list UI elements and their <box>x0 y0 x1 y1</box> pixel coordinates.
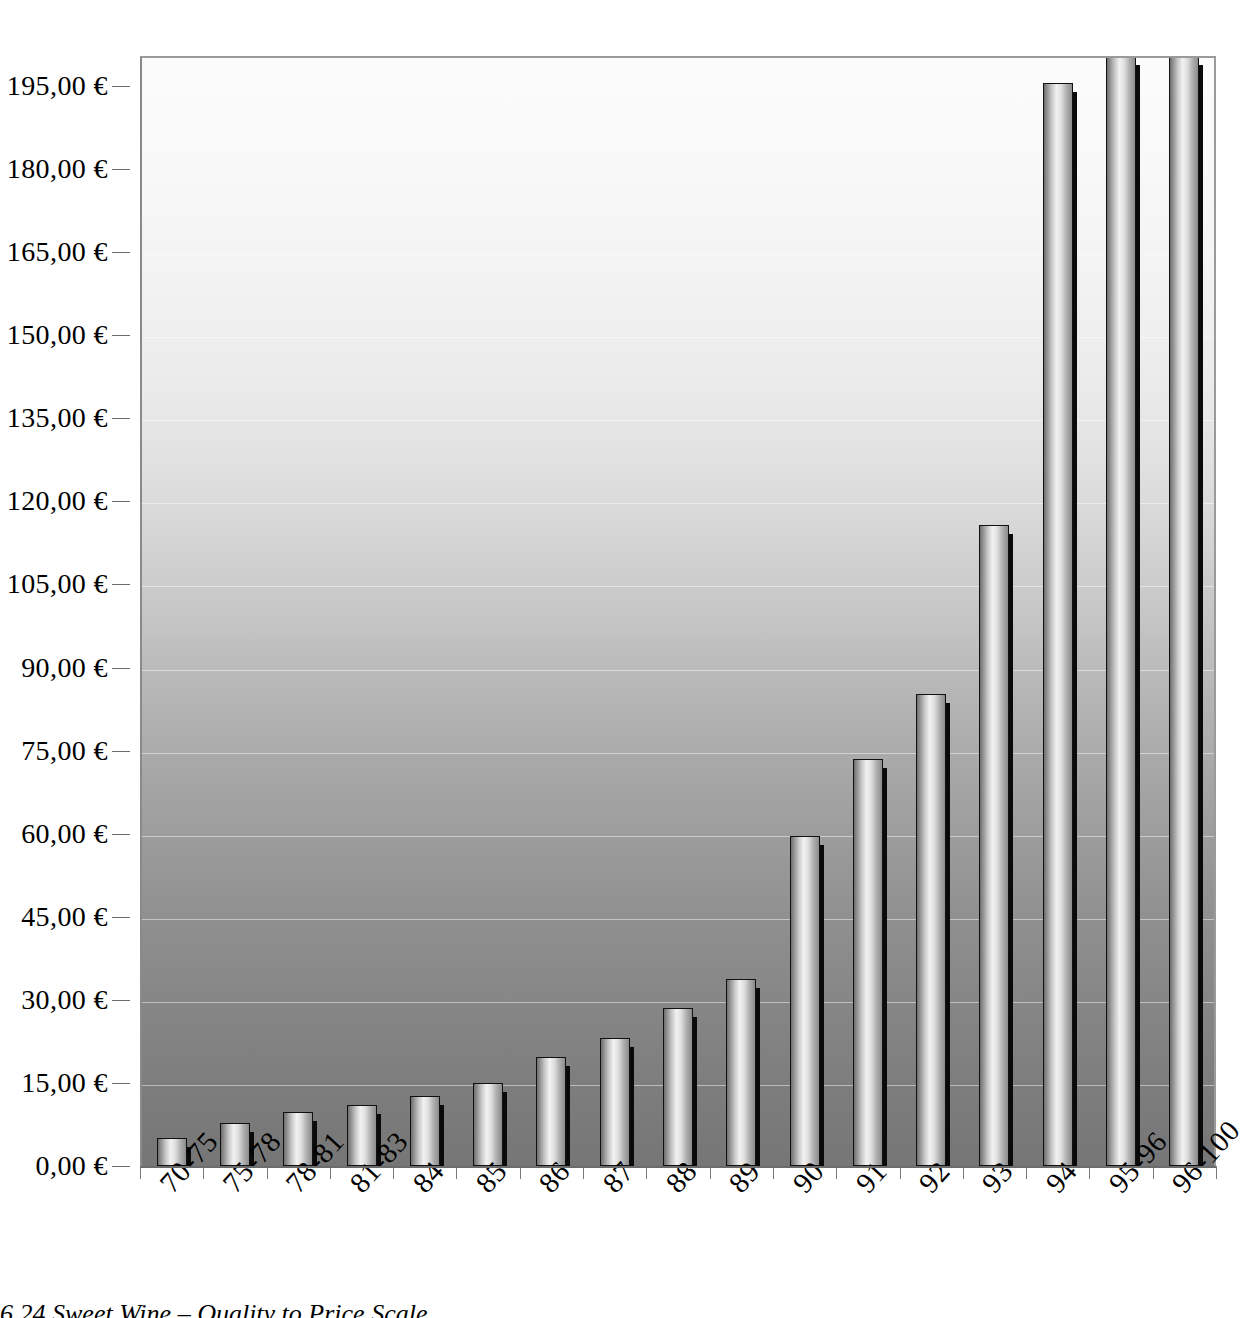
y-axis-tick-mark <box>112 834 130 835</box>
y-axis-tick-label: 105,00 € <box>7 570 108 598</box>
chart-plot-area <box>140 56 1216 1166</box>
bar <box>600 1038 634 1166</box>
y-axis-tick-label: 45,00 € <box>21 903 108 931</box>
y-axis-tick-label: 165,00 € <box>7 238 108 266</box>
y-axis-tick-label: 195,00 € <box>7 72 108 100</box>
y-axis-tick-label: 30,00 € <box>21 986 108 1014</box>
y-axis-tick-mark <box>112 1083 130 1084</box>
bar-slot <box>648 1008 711 1166</box>
bar-series <box>142 58 1214 1166</box>
x-axis-baseline <box>140 1166 1216 1168</box>
bar <box>1169 56 1203 1166</box>
bar-slot <box>775 836 838 1166</box>
y-axis-tick-mark <box>112 668 130 669</box>
bar <box>979 525 1013 1166</box>
bar-body <box>916 694 946 1166</box>
y-axis-tick-label: 90,00 € <box>21 654 108 682</box>
x-axis-labels: 70-7575-7878-8181-8384858687888990919293… <box>140 1178 1234 1298</box>
bar <box>916 694 950 1166</box>
bar-slot <box>458 1083 521 1166</box>
y-axis-tick-label: 0,00 € <box>36 1152 108 1180</box>
bar-body <box>1106 56 1136 1166</box>
bar-body <box>473 1083 503 1166</box>
bar <box>790 836 824 1166</box>
y-axis-tick-mark <box>112 418 130 419</box>
y-axis-tick-label: 15,00 € <box>21 1069 108 1097</box>
bar-slot <box>902 694 965 1166</box>
y-axis-tick-label: 60,00 € <box>21 820 108 848</box>
y-axis-tick-mark <box>112 335 130 336</box>
bar-slot <box>1028 83 1091 1166</box>
bar-body <box>600 1038 630 1166</box>
bar-slot <box>838 759 901 1166</box>
bar-slot <box>1155 56 1216 1166</box>
y-axis: 0,00 €15,00 €30,00 €45,00 €60,00 €75,00 … <box>0 0 140 1230</box>
bar <box>726 979 760 1166</box>
bar <box>1043 83 1077 1166</box>
y-axis-tick-mark <box>112 751 130 752</box>
bar-slot <box>585 1038 648 1166</box>
bar-slot <box>712 979 775 1166</box>
y-axis-tick-mark <box>112 169 130 170</box>
bar <box>473 1083 507 1166</box>
bar-body <box>853 759 883 1166</box>
y-axis-tick-label: 135,00 € <box>7 404 108 432</box>
figure-caption: 6.24 Sweet Wine – Quality to Price Scale <box>0 1300 700 1318</box>
y-axis-tick-mark <box>112 252 130 253</box>
y-axis-tick-label: 150,00 € <box>7 321 108 349</box>
y-axis-tick-mark <box>112 917 130 918</box>
y-axis-tick-mark <box>112 86 130 87</box>
y-axis-tick-label: 180,00 € <box>7 155 108 183</box>
y-axis-tick-mark <box>112 584 130 585</box>
bar-body <box>536 1057 566 1166</box>
y-axis-tick-mark <box>112 1000 130 1001</box>
bar-body <box>1169 56 1199 1166</box>
bar-body <box>1043 83 1073 1166</box>
bar-body <box>790 836 820 1166</box>
bar-body <box>979 525 1009 1166</box>
y-axis-tick-label: 120,00 € <box>7 487 108 515</box>
y-axis-tick-mark <box>112 1166 130 1167</box>
y-axis-tick-mark <box>112 501 130 502</box>
bar <box>663 1008 697 1166</box>
y-axis-tick-label: 75,00 € <box>21 737 108 765</box>
bar <box>853 759 887 1166</box>
bar-body <box>726 979 756 1166</box>
bar-body <box>663 1008 693 1166</box>
bar <box>536 1057 570 1166</box>
bar-slot <box>522 1057 585 1166</box>
bar-slot <box>1091 56 1154 1166</box>
bar <box>1106 56 1140 1166</box>
bar-slot <box>965 525 1028 1166</box>
